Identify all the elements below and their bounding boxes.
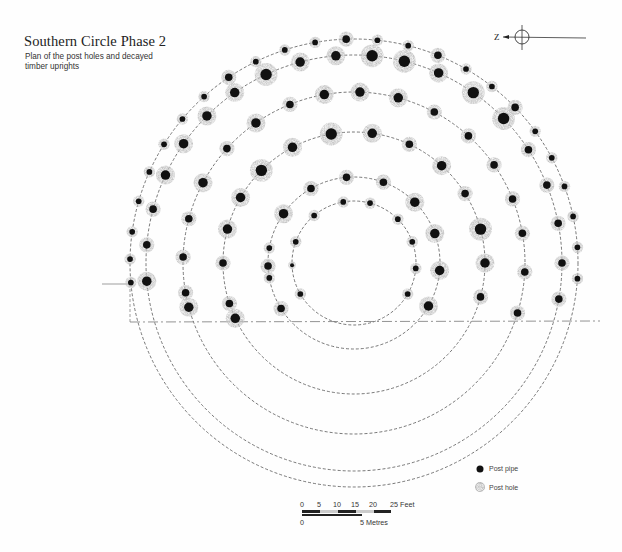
post [226,309,245,328]
post-pipe-icon [405,43,411,49]
post [260,258,275,273]
post [559,181,570,192]
post-pipe-icon [251,118,261,128]
post-pipe-icon [435,266,445,276]
post [430,48,445,63]
post-pipe-icon [430,108,438,116]
post-pipe-icon [136,198,142,204]
post-pipe-icon [307,185,315,193]
post [309,37,320,48]
post-pipe-icon [179,253,187,261]
post [124,253,135,264]
posts [124,32,583,328]
post-pipe-icon [142,276,152,286]
post-pipe-icon [490,161,498,169]
post-pipe-icon [461,190,469,198]
post-pipe-icon [430,229,440,239]
post [376,175,391,190]
post [551,216,566,231]
post [194,173,213,192]
post-pipe-icon [295,57,305,67]
post [218,220,237,239]
post [291,53,310,72]
post-pipe-icon [463,66,469,72]
post-pipe-icon [468,87,479,98]
post-pipe-icon [340,199,346,205]
post-pipe-icon [201,94,207,100]
post-pipe-icon [286,101,294,109]
post [389,88,408,107]
post-pipe-icon [179,139,189,149]
post-pipe-icon [489,84,495,90]
post-pipe-icon [465,132,473,140]
post-pipe-icon [570,214,576,220]
post-pipe-icon [202,111,212,121]
post-pipe-icon [532,128,538,134]
scale-feet-0: 0 [300,500,304,509]
post [361,44,384,67]
post-pipe-icon [410,197,420,207]
post [393,50,416,73]
post-pipe-icon [562,184,568,190]
post-pipe-icon [320,90,330,100]
post [530,126,541,137]
post-pipe-icon [380,178,388,186]
circle-plan: Z Post pipe Post hole 0 5 10 15 20 25 Fe… [0,0,622,552]
post [461,128,476,143]
post-pipe-icon [395,216,401,222]
post-pipe-icon [355,87,365,97]
post [231,188,250,207]
post [339,32,354,47]
post [521,142,536,157]
post-pipe-icon [434,68,444,78]
post-pipe-icon [297,291,303,297]
post [137,272,156,291]
scale-feet-5: 5 [317,500,321,509]
post [215,255,230,270]
scale-metres-0: 0 [300,518,304,527]
post-pipe-icon [575,276,581,282]
post [197,106,216,125]
scale-feet-10: 10 [333,500,341,509]
post-pipe-icon [223,145,231,153]
post-pipe-icon [509,195,517,203]
post [486,157,501,172]
post [505,191,520,206]
post-pipe-icon [260,69,271,80]
post-pipe-icon [185,215,193,223]
post-pipe-icon [366,50,377,61]
post [339,170,354,185]
post [473,289,488,304]
post-pipe-icon [236,193,246,203]
north-arrow: Z [494,25,586,50]
post-pipe-icon [424,301,434,311]
post [295,288,306,299]
post-hole-icon [475,482,485,492]
post [133,196,144,207]
scale-bar: 0 5 10 15 20 25 Feet 0 5 Metres [300,500,414,527]
post [462,81,485,104]
post-pipe-icon [225,73,233,81]
post [539,177,554,192]
post [567,211,578,222]
legend-label-post-hole: Post hole [489,484,518,491]
post-pipe-icon [394,93,404,103]
post-pipe-icon [256,165,267,176]
post-pipe-icon [375,37,381,43]
scale-feet-20: 20 [369,500,377,509]
post [176,249,191,264]
post-pipe-icon [277,305,285,313]
post-pipe-icon [129,229,135,235]
post [303,181,318,196]
post-pipe-icon [543,181,551,189]
post [486,81,497,92]
post-pipe-icon [477,293,485,301]
post [432,156,451,175]
post [126,226,137,237]
post [158,139,169,150]
post [430,261,449,280]
post-pipe-icon [147,169,153,175]
section-cut-line [130,321,600,322]
post [264,272,275,283]
post [402,137,417,152]
